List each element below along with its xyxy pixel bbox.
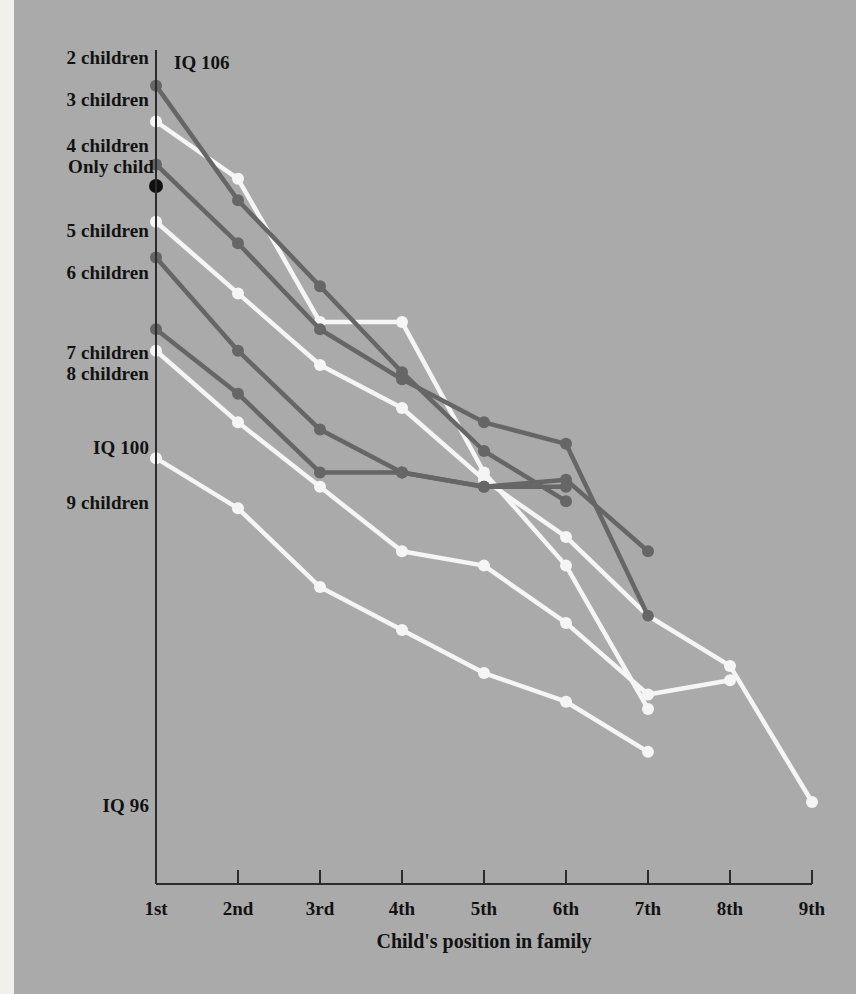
annotation-iq-106: IQ 106 <box>174 52 229 74</box>
series-label-3-children: 3 children <box>67 89 149 111</box>
data-point <box>314 280 326 292</box>
series-layer <box>149 80 818 808</box>
data-point <box>642 610 654 622</box>
data-point <box>560 531 572 543</box>
data-point <box>560 438 572 450</box>
series-9-children <box>150 452 654 758</box>
series-line <box>156 458 648 752</box>
data-point <box>560 617 572 629</box>
data-point <box>396 366 408 378</box>
x-tick-9th: 9th <box>799 898 825 920</box>
data-point <box>396 545 408 557</box>
data-point <box>642 746 654 758</box>
x-tick-2nd: 2nd <box>223 898 254 920</box>
series-line <box>156 222 812 802</box>
series-label-5-children: 5 children <box>67 220 149 242</box>
series-label-7-children: 7 children <box>67 342 149 364</box>
x-tick-1st: 1st <box>144 898 167 920</box>
series-5-children <box>150 216 818 808</box>
series-label-4-children: 4 children <box>67 135 149 157</box>
series-line <box>156 329 648 551</box>
data-point <box>232 194 244 206</box>
x-tick-7th: 7th <box>635 898 661 920</box>
data-point <box>396 402 408 414</box>
data-point <box>478 667 490 679</box>
data-point <box>396 316 408 328</box>
series-line <box>156 86 566 501</box>
x-tick-6th: 6th <box>553 898 579 920</box>
data-point <box>232 502 244 514</box>
data-point <box>478 560 490 572</box>
data-point <box>232 237 244 249</box>
data-point <box>806 796 818 808</box>
data-point <box>314 581 326 593</box>
series-label-only-child: Only child <box>68 156 154 178</box>
data-point <box>724 660 736 672</box>
x-tick-5th: 5th <box>471 898 497 920</box>
data-point <box>478 466 490 478</box>
data-point <box>314 359 326 371</box>
series-label-8-children: 8 children <box>67 363 149 385</box>
data-point <box>396 466 408 478</box>
data-point <box>478 445 490 457</box>
data-point <box>560 495 572 507</box>
data-point <box>232 416 244 428</box>
series-label-6-children: 6 children <box>67 262 149 284</box>
data-point <box>232 173 244 185</box>
data-point <box>560 481 572 493</box>
series-label-2-children: 2 children <box>67 47 149 69</box>
series-2-children <box>150 80 572 507</box>
x-tick-8th: 8th <box>717 898 743 920</box>
data-point <box>642 545 654 557</box>
x-tick-3rd: 3rd <box>306 898 335 920</box>
data-point <box>232 287 244 299</box>
series-line <box>156 258 566 487</box>
data-point <box>396 624 408 636</box>
data-point <box>478 416 490 428</box>
data-point <box>314 481 326 493</box>
x-tick-4th: 4th <box>389 898 415 920</box>
x-axis-title: Child's position in family <box>376 930 591 953</box>
annotation-iq-100: IQ 100 <box>93 437 149 459</box>
chart-figure: 2 children 3 children 4 children Only ch… <box>0 0 856 994</box>
data-point <box>314 466 326 478</box>
data-point <box>314 424 326 436</box>
data-point <box>232 388 244 400</box>
data-point <box>560 696 572 708</box>
data-point <box>232 345 244 357</box>
series-label-9-children: 9 children <box>67 492 149 514</box>
data-point <box>642 703 654 715</box>
data-point <box>314 323 326 335</box>
data-point <box>560 560 572 572</box>
data-point <box>478 481 490 493</box>
annotation-iq-96: IQ 96 <box>103 795 149 817</box>
series-7-children <box>150 323 654 557</box>
